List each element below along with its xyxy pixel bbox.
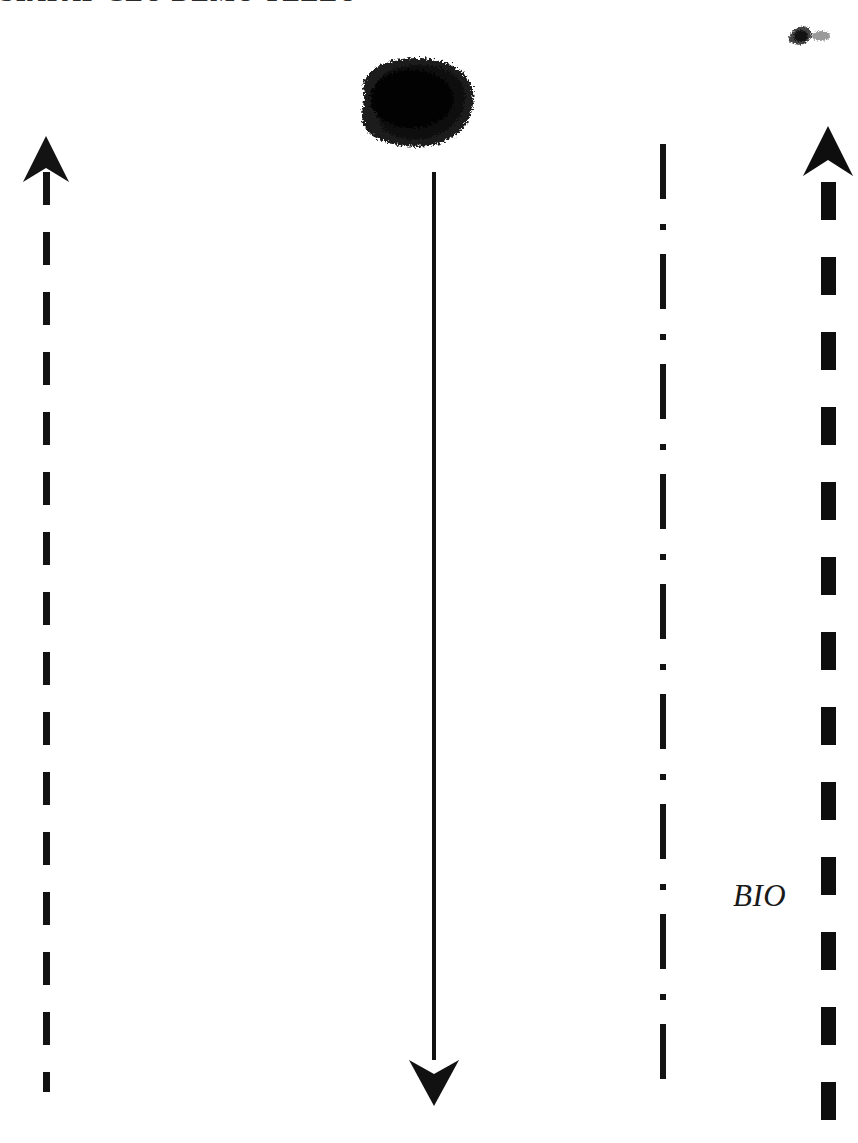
center-arrow-head-notch [409, 1060, 459, 1074]
bio-label: BIO [733, 878, 786, 914]
right-dashed-line [821, 182, 836, 1143]
page-title: SIAPAP CLU DEMU YELLU [0, 0, 420, 10]
right-arrow-head-notch [803, 160, 853, 176]
ink-blob [334, 53, 482, 149]
dash-dot-line [660, 144, 666, 1084]
left-dashed-line [43, 172, 50, 1092]
scanned-page: SIAPAP CLU DEMU YELLU [0, 0, 858, 1143]
ink-smudge [783, 20, 835, 54]
center-solid-line [432, 172, 436, 1072]
